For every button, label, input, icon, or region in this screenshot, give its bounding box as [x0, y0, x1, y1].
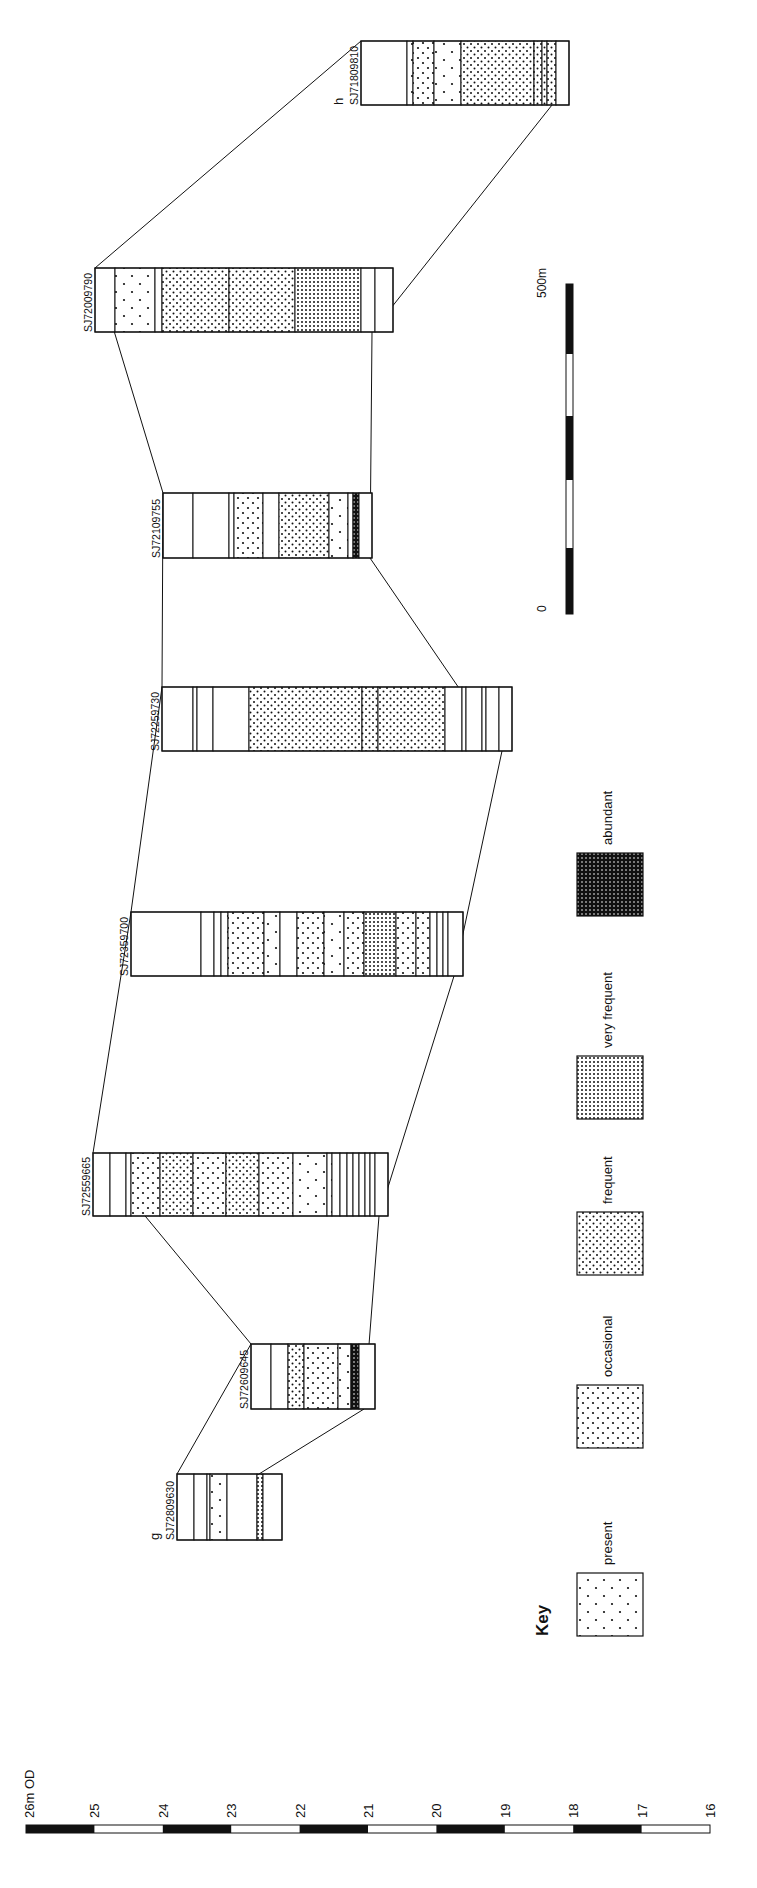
core-band-frequent [362, 687, 378, 751]
core-band-blank [375, 1153, 388, 1216]
core-band-present [115, 268, 155, 332]
core-column: SJ72609645 [238, 1344, 375, 1409]
core-band-abundant [353, 493, 359, 558]
core-band-frequent [226, 1153, 259, 1216]
core-band-occasional [193, 1153, 226, 1216]
core-band-blank [361, 41, 407, 105]
core-band-blank [201, 912, 214, 976]
core-band-blank [263, 493, 279, 558]
core-band-blank [466, 687, 482, 751]
core-band-frequent [288, 1344, 304, 1409]
core-band-blank [271, 1344, 288, 1409]
legend: Key presentoccasionalfrequentvery freque… [533, 790, 643, 1636]
core-band-blank [486, 687, 499, 751]
core-label: SJ72559665 [80, 1157, 92, 1216]
core-band-occasional [228, 912, 264, 976]
core-band-blank [347, 1153, 353, 1216]
legend-label: occasional [600, 1315, 615, 1377]
core-band-blank [213, 687, 249, 751]
core-band-very-frequent [257, 1474, 263, 1540]
core-band-present [407, 41, 413, 105]
core-band-frequent [249, 687, 362, 751]
core-band-blank [95, 268, 115, 332]
core-band-blank [370, 1153, 375, 1216]
core-band-blank [359, 493, 372, 558]
core-band-blank [194, 1474, 207, 1540]
core-column: SJ72109755 [150, 493, 372, 558]
height-scale-bar: 26m OD 25242322212019181716 [22, 1770, 718, 1833]
legend-item-present: present [577, 1521, 643, 1636]
core-column: SJ72359700 [118, 912, 463, 976]
core-band-occasional [304, 1344, 338, 1409]
core-band-blank [375, 268, 393, 332]
legend-label: very frequent [600, 972, 615, 1048]
core-band-frequent [229, 268, 295, 332]
legend-title: Key [533, 1604, 552, 1636]
core-band-occasional [131, 1153, 160, 1216]
legend-swatch [577, 1385, 643, 1448]
correlation-lines [93, 41, 552, 1474]
core-column: SJ72259730 [149, 687, 512, 751]
core-band-blank [251, 1344, 271, 1409]
core-band-blank [227, 1474, 257, 1540]
core-band-blank [263, 1474, 282, 1540]
core-band-blank [359, 1344, 375, 1409]
core-band-blank [229, 493, 234, 558]
height-scale-tick-label: 18 [566, 1804, 581, 1818]
core-band-occasional [396, 912, 416, 976]
legend-swatch [577, 1212, 643, 1275]
stratigraphic-cross-section: SJ72809630gSJ72609645SJ72559665SJ7235970… [0, 0, 757, 1888]
core-label: SJ72009790 [82, 273, 94, 332]
core-band-frequent [279, 493, 329, 558]
core-band-frequent [461, 41, 534, 105]
core-band-very-frequent [364, 912, 396, 976]
core-band-blank [359, 1153, 365, 1216]
legend-swatch [577, 1056, 643, 1119]
core-band-present [324, 912, 344, 976]
top-correlation-line [93, 41, 361, 1474]
core-band-abundant [351, 1344, 359, 1409]
core-band-blank [340, 1153, 347, 1216]
core-band-occasional [416, 912, 430, 976]
core-column: SJ71809810h [331, 41, 569, 105]
distance-scale-start-label: 0 [535, 605, 549, 612]
core-band-blank [177, 1474, 194, 1540]
core-band-blank [193, 493, 229, 558]
core-band-blank [93, 1153, 110, 1216]
core-band-present [437, 912, 443, 976]
height-scale-tick-label: 25 [87, 1804, 102, 1818]
core-column: SJ72559665 [80, 1153, 388, 1216]
core-label: SJ72109755 [150, 499, 162, 558]
core-band-blank [332, 1153, 340, 1216]
section-end-label: h [331, 98, 346, 105]
core-band-blank [348, 493, 353, 558]
core-band-blank [163, 493, 193, 558]
core-column: SJ72809630g [147, 1474, 282, 1540]
core-band-present [434, 41, 461, 105]
core-band-blank [556, 41, 569, 105]
legend-label: abundant [600, 790, 615, 845]
core-band-present [338, 1344, 351, 1409]
core-band-blank [361, 268, 375, 332]
legend-label: present [600, 1521, 615, 1565]
distance-scale-bar: 500m 0 [535, 268, 573, 614]
core-band-frequent [534, 41, 542, 105]
core-band-blank [126, 1153, 131, 1216]
core-band-very-frequent [295, 268, 361, 332]
core-band-present [327, 1153, 332, 1216]
core-column: SJ72009790 [82, 268, 393, 332]
core-band-present [329, 493, 348, 558]
core-band-frequent [162, 268, 229, 332]
legend-swatch [577, 1573, 643, 1636]
height-scale-tick-label: 21 [361, 1804, 376, 1818]
core-columns: SJ72809630gSJ72609645SJ72559665SJ7235970… [80, 41, 569, 1540]
core-band-blank [193, 687, 197, 751]
height-scale-tick-label: 16 [703, 1804, 718, 1818]
core-band-blank [443, 912, 448, 976]
core-label: SJ72609645 [238, 1350, 250, 1409]
core-band-blank [197, 687, 213, 751]
legend-item-very-frequent: very frequent [577, 972, 643, 1119]
core-label: SJ72359700 [118, 917, 130, 976]
core-band-blank [448, 912, 463, 976]
height-scale-tick-label: 24 [156, 1804, 171, 1818]
